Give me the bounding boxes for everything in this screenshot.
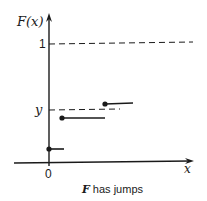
x-axis-label: x [184, 162, 191, 176]
dashed-line-level-one [49, 42, 193, 44]
step-segment-3 [105, 103, 133, 104]
step-function-diagram: F(x) 1 y 0 x F has jumps [0, 0, 207, 201]
level-y-label: y [34, 102, 43, 117]
origin-label: 0 [45, 167, 52, 181]
level-one-label: 1 [39, 37, 46, 51]
y-axis-label: F(x) [16, 14, 44, 29]
caption: F has jumps [81, 183, 144, 196]
x-axis [14, 161, 190, 163]
step-dot-3 [102, 101, 107, 106]
dashed-line-level-y [49, 109, 120, 110]
caption-text: has jumps [90, 183, 144, 195]
step-dot-2 [59, 115, 64, 120]
step-dot-1 [46, 146, 51, 151]
